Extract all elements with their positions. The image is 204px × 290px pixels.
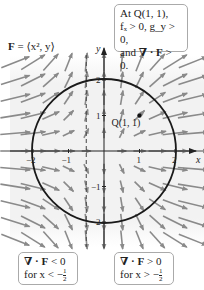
field-label: F = ⟨x², y⟩ [8,40,55,53]
x-tick-label: 2 [172,155,177,165]
top-box-line2: fₓ > 0, g_y > 0, [120,20,182,46]
point-q-label: Q(1, 1) [112,117,141,129]
top-annotation-box: At Q(1, 1), fₓ > 0, g_y > 0, and ∇ · F >… [114,4,188,52]
y-axis-label: y [95,43,101,54]
y-tick-label: 2 [96,75,101,85]
bottom-left-annotation-box: ∇ · F < 0 for x < −12 [18,252,78,285]
x-tick-label: −2 [26,155,36,165]
x-tick-label: 1 [137,155,142,165]
y-tick-label: 1 [96,111,101,121]
top-box-line1: At Q(1, 1), [120,7,182,20]
bl-line2: for x < −12 [24,268,72,283]
y-tick-label: −2 [91,217,101,227]
x-axis-label: x [195,154,201,165]
x-tick-label: −1 [62,155,72,165]
br-line2: for x > −12 [120,268,168,283]
y-tick-label: −1 [91,182,101,192]
bottom-right-annotation-box: ∇ · F > 0 for x > −12 [114,252,174,285]
top-box-line3: and ∇ · F > 0. [120,46,182,72]
